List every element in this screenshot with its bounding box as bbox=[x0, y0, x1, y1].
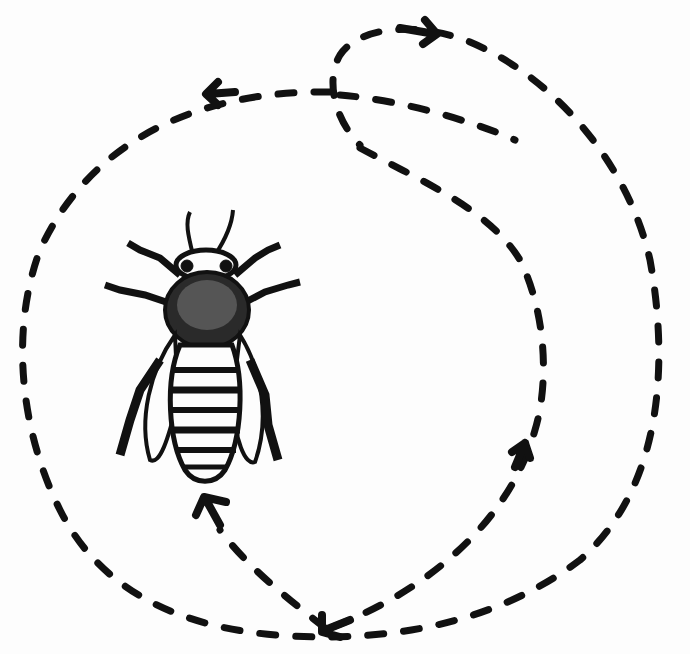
diagram-svg bbox=[0, 0, 690, 654]
inner-dashed-to-bee bbox=[220, 530, 325, 628]
inner-dashed-descend bbox=[330, 148, 543, 628]
arrow-bottom-to-bee bbox=[196, 497, 226, 525]
bee-illustration bbox=[105, 210, 300, 481]
outer-dashed-loop bbox=[23, 29, 659, 637]
round-dance-diagram: Honeybee round dance bbox=[0, 0, 690, 654]
arrow-top-right bbox=[400, 20, 437, 44]
inner-dashed-loop bbox=[340, 95, 515, 140]
